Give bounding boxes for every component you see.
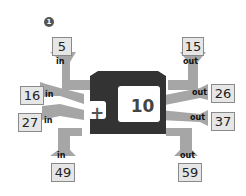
output-label-2: out [192, 88, 207, 97]
input-box-2: 16 [20, 86, 44, 105]
output-box-4: 59 [178, 163, 202, 182]
input-label-1: in [56, 57, 64, 66]
output-box-2: 26 [211, 84, 235, 103]
input-label-2: in [45, 90, 53, 99]
input-box-3: 27 [18, 113, 42, 132]
input-label-4: in [57, 151, 65, 160]
operand-value: 10 [120, 96, 165, 116]
input-label-3: in [44, 116, 52, 125]
operator-symbol: + [88, 104, 106, 122]
output-box-1: 15 [182, 37, 204, 56]
output-label-3: out [190, 113, 205, 122]
function-machine-diagram: 1 + 10 5 in 16 in 27 in in 49 15 out out… [0, 0, 246, 196]
input-box-1: 5 [52, 37, 72, 56]
input-box-4: 49 [51, 163, 75, 182]
output-box-3: 37 [211, 112, 235, 131]
problem-number-badge: 1 [44, 17, 54, 27]
output-label-4: out [180, 151, 195, 160]
chute-in-bottom [50, 128, 82, 156]
output-label-1: out [183, 57, 198, 66]
